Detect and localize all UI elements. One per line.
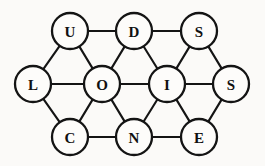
graph-edge-o-c <box>79 98 94 122</box>
node-label-c: C <box>65 130 76 146</box>
graph-canvas: UDSLOISCNE <box>0 0 265 166</box>
node-label-u: U <box>65 24 76 40</box>
node-label-o: O <box>96 77 108 93</box>
node-label-s1: S <box>195 24 203 40</box>
node-label-s2: S <box>227 77 235 93</box>
graph-node-l[interactable]: L <box>15 66 51 102</box>
graph-edge-i-e <box>176 98 191 122</box>
graph-edge-s2-e <box>208 98 223 122</box>
node-label-d: D <box>129 24 140 40</box>
graph-edge-d-i <box>143 45 158 69</box>
graph-edge-s1-i <box>176 45 191 69</box>
graph-edge-u-l <box>43 45 61 70</box>
graph-edge-u-o <box>79 45 94 69</box>
node-label-e: E <box>194 130 204 146</box>
graph-edge-o-n <box>111 98 126 122</box>
node-label-i: I <box>164 77 170 93</box>
node-label-l: L <box>28 77 38 93</box>
graph-edge-i-n <box>143 98 158 122</box>
node-label-n: N <box>129 130 140 146</box>
graph-node-o[interactable]: O <box>84 66 120 102</box>
graph-edge-l-c <box>43 98 61 123</box>
graph-node-s1[interactable]: S <box>181 13 217 49</box>
graph-node-u[interactable]: U <box>52 13 88 49</box>
graph-node-s2[interactable]: S <box>213 66 249 102</box>
graph-node-n[interactable]: N <box>116 119 152 155</box>
letter-graph-diagram: UDSLOISCNE <box>0 0 265 166</box>
graph-node-c[interactable]: C <box>52 119 88 155</box>
graph-node-d[interactable]: D <box>116 13 152 49</box>
graph-node-i[interactable]: I <box>149 66 185 102</box>
graph-node-e[interactable]: E <box>181 119 217 155</box>
graph-edge-d-o <box>111 45 126 69</box>
graph-edge-s1-s2 <box>208 45 223 69</box>
